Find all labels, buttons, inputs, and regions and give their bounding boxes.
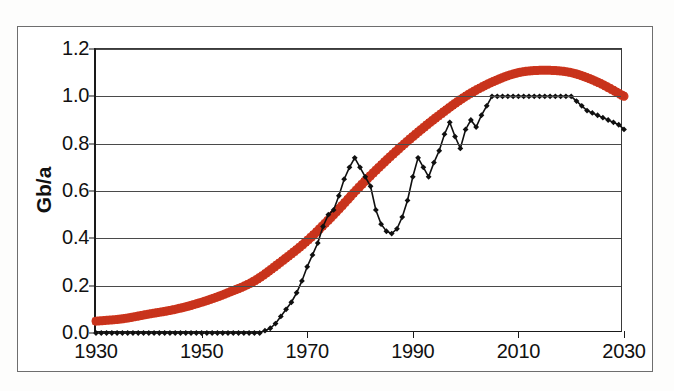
gridline [96, 49, 621, 50]
y-tick-mark [89, 238, 96, 239]
y-tick-label: 1.0 [62, 84, 89, 107]
gridline [96, 286, 621, 287]
plot-area: 0.00.20.40.60.81.01.21930195019701990201… [94, 48, 622, 332]
x-tick-label: 2010 [497, 340, 540, 363]
x-tick-mark [413, 331, 414, 338]
gridline [96, 144, 621, 145]
x-tick-mark [202, 331, 203, 338]
y-tick-label: 0.4 [62, 226, 89, 249]
y-tick-label: 0.6 [62, 179, 89, 202]
y-tick-mark [89, 191, 96, 192]
x-tick-label: 1930 [74, 340, 117, 363]
x-tick-label: 2030 [602, 340, 645, 363]
x-tick-mark [518, 331, 519, 338]
observed-markers [93, 93, 627, 335]
y-tick-label: 0.8 [62, 132, 89, 155]
x-tick-label: 1990 [391, 340, 434, 363]
chart-figure: Gb/a 0.00.20.40.60.81.01.219301950197019… [0, 0, 674, 391]
y-tick-mark [89, 143, 96, 144]
y-axis-title: Gb/a [32, 167, 56, 214]
x-tick-mark [624, 331, 625, 338]
gridline [96, 96, 621, 97]
y-tick-mark [89, 96, 96, 97]
x-tick-label: 1950 [180, 340, 223, 363]
y-tick-label: 0.2 [62, 274, 89, 297]
x-tick-label: 1970 [286, 340, 329, 363]
y-tick-mark [89, 285, 96, 286]
gridline [96, 238, 621, 239]
gridline [96, 191, 621, 192]
y-tick-mark [89, 49, 96, 50]
y-tick-label: 1.2 [62, 37, 89, 60]
y-tick-mark [89, 333, 96, 334]
observed-curve-black [96, 96, 624, 333]
x-tick-mark [307, 331, 308, 338]
